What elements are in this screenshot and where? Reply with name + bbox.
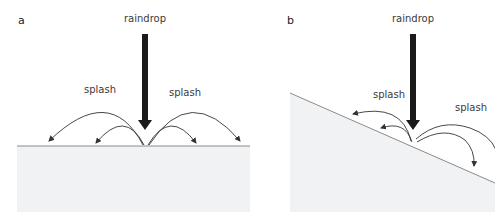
- panel-a-raindrop-arrow: [138, 34, 152, 130]
- panel-b: b raindrop splash splash: [287, 13, 495, 212]
- panel-b-raindrop-label: raindrop: [392, 13, 434, 24]
- panel-b-letter: b: [287, 14, 294, 27]
- panel-a-raindrop-label: raindrop: [124, 13, 166, 24]
- panel-b-raindrop-arrow: [406, 34, 420, 130]
- raindrop-splash-diagram: a raindrop splash splash b raindrop spla…: [0, 0, 495, 223]
- panel-b-splash-right-label: splash: [455, 102, 487, 113]
- panel-a-splash-left-label: splash: [84, 84, 116, 95]
- panel-a-letter: a: [18, 14, 25, 27]
- panel-a: a raindrop splash splash: [17, 13, 250, 212]
- panel-a-splash-right-label: splash: [169, 87, 201, 98]
- panel-b-splash-left-label: splash: [373, 89, 405, 100]
- panel-a-ground: [17, 146, 250, 212]
